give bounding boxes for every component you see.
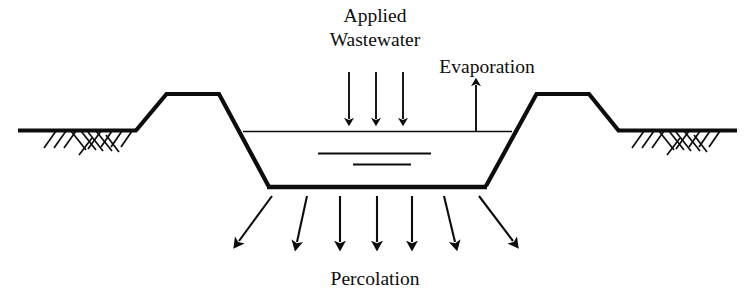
percolation-arrows <box>239 196 513 242</box>
ground-hatching-left <box>44 131 132 155</box>
percolation-arrow-1 <box>239 196 272 241</box>
percolation-label: Percolation <box>331 268 420 289</box>
applied-wastewater-label-line1: Applied <box>344 5 407 26</box>
ponded-water <box>243 132 512 165</box>
percolation-arrow-7 <box>479 196 513 241</box>
diagram-canvas: Applied Wastewater Evaporation Percolati… <box>0 0 751 305</box>
applied-wastewater-label-line2: Wastewater <box>330 29 421 50</box>
berm-left-outline <box>136 94 269 186</box>
ground-hatching-right <box>632 131 720 155</box>
berm-right-outline <box>486 94 619 186</box>
percolation-arrow-2 <box>297 196 307 242</box>
evaporation-label: Evaporation <box>439 56 535 77</box>
applied-wastewater-arrows <box>349 72 403 119</box>
percolation-arrow-6 <box>444 196 455 242</box>
basin-water-balance-diagram: Applied Wastewater Evaporation Percolati… <box>0 0 751 305</box>
